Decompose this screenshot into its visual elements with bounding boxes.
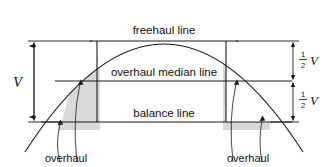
leader-right-inner — [231, 80, 239, 163]
dimension-total-height: V — [13, 42, 36, 122]
label-overhaul-median-line: overhaul median line — [111, 66, 217, 78]
label-overhaul-right: overhaul — [227, 152, 269, 164]
label-upper-half-variable: V — [310, 53, 320, 68]
arrowhead-down-left — [32, 116, 36, 121]
arrowhead-down-upper-right — [291, 75, 295, 80]
label-total-height-V: V — [13, 74, 24, 90]
label-freehaul-line: freehaul line — [133, 24, 196, 36]
label-upper-half-denominator: 2 — [301, 61, 305, 70]
dimension-lower-half: 1 2 V — [291, 82, 320, 122]
label-balance-line: balance line — [133, 107, 194, 119]
arrowhead-up-upper-right — [291, 42, 295, 47]
label-lower-half-variable: V — [310, 93, 320, 108]
label-lower-half-denominator: 2 — [301, 101, 305, 110]
leader-arrowhead-right-outer — [260, 116, 266, 121]
mass-haul-curve — [25, 44, 303, 152]
arrowhead-down-lower-right — [291, 116, 295, 121]
label-overhaul-left: overhaul — [45, 152, 87, 164]
arrowhead-up-left — [32, 42, 36, 47]
arrowhead-up-lower-right — [291, 82, 295, 87]
mass-haul-diagram: V 1 2 V 1 2 V — [0, 0, 328, 167]
diagram-canvas: V 1 2 V 1 2 V — [0, 0, 328, 167]
label-lower-half-numerator: 1 — [301, 90, 305, 99]
label-upper-half-numerator: 1 — [301, 50, 305, 59]
leader-arrowhead-right-inner — [234, 80, 240, 85]
dimension-upper-half: 1 2 V — [291, 42, 320, 81]
